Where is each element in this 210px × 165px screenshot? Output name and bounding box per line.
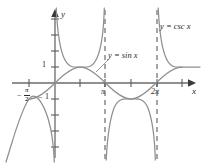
negative-half-pi-numerator: π bbox=[24, 87, 30, 94]
sine-label-leader-group bbox=[96, 59, 109, 72]
x-tick-label-pi: π bbox=[101, 88, 105, 96]
y-axis-label: y bbox=[61, 10, 65, 19]
y-tick-label-negative-one: 1 bbox=[45, 93, 49, 101]
trig-graph-figure: y x 1 − 1 π 2π − π 2 y = csc x y = sin x bbox=[0, 0, 210, 165]
negative-half-pi-fraction: π 2 bbox=[24, 87, 30, 103]
y-tick-label-one: 1 bbox=[42, 61, 46, 69]
cosecant-equation-label: y = csc x bbox=[160, 22, 191, 31]
sine-label-leader-line bbox=[96, 59, 109, 72]
cosecant-branch-pi-twopi bbox=[106, 99, 155, 160]
x-axis-label: x bbox=[192, 87, 196, 96]
cosecant-branch-neg-one bbox=[6, 96, 54, 162]
y-tick-label-negative-one-minus: − bbox=[38, 93, 43, 102]
negative-half-pi-minus: − bbox=[17, 91, 22, 100]
y-axis-arrowhead bbox=[51, 9, 59, 17]
cosecant-curve-group bbox=[6, 8, 200, 162]
cosecant-branch-twopi-right bbox=[158, 8, 200, 67]
axes-group bbox=[12, 9, 196, 158]
x-tick-label-two-pi: 2π bbox=[151, 88, 159, 96]
sine-equation-label: y = sin x bbox=[108, 51, 138, 60]
negative-half-pi-denominator: 2 bbox=[24, 96, 30, 103]
